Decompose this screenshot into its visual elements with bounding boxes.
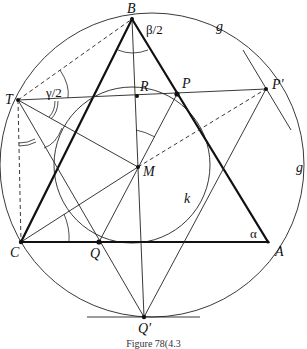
angle-arc-m xyxy=(136,130,155,137)
angle-arc-c xyxy=(64,214,69,242)
label-alpha: α xyxy=(250,226,257,241)
angle-arc-t-double-2 xyxy=(19,139,35,143)
label-q: Q xyxy=(90,246,100,261)
label-m: M xyxy=(142,164,156,179)
dashed-t-c xyxy=(18,100,21,242)
figure-caption: Figure 78(4.3 xyxy=(0,338,307,349)
dashed-m-p-prime xyxy=(138,89,266,167)
label-a: A xyxy=(274,244,284,259)
dashed-t-b xyxy=(18,19,132,100)
point-p xyxy=(174,91,179,96)
label-r: R xyxy=(139,79,149,94)
triangle-abc xyxy=(21,19,268,242)
point-b xyxy=(130,17,134,21)
point-q-prime xyxy=(142,315,146,319)
label-g-right: g xyxy=(296,160,303,175)
label-gamma-half: γ/2 xyxy=(45,85,62,100)
point-c xyxy=(19,240,23,244)
line-t-m xyxy=(18,100,138,167)
label-p: P xyxy=(181,76,191,91)
point-a xyxy=(266,240,269,243)
label-p-prime: P' xyxy=(271,77,285,92)
label-k: k xyxy=(184,191,191,206)
point-r xyxy=(135,94,139,98)
point-q xyxy=(96,239,101,244)
label-beta-half: β/2 xyxy=(146,22,163,37)
label-q-prime: Q' xyxy=(138,321,152,336)
point-p-prime xyxy=(264,87,268,91)
label-t: T xyxy=(5,92,14,107)
label-g-top: g xyxy=(216,19,223,34)
point-t xyxy=(16,98,20,102)
label-c: C xyxy=(10,245,20,260)
label-b: B xyxy=(127,1,136,16)
point-m xyxy=(136,165,140,169)
